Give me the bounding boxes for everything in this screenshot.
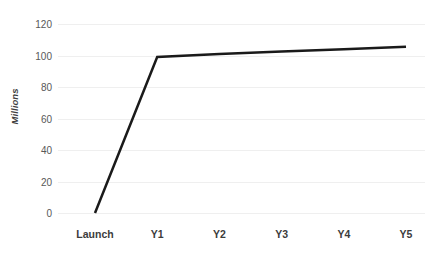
plot-area — [58, 24, 425, 213]
y-tick-label: 80 — [0, 82, 58, 93]
x-tick-label: Y5 — [400, 228, 413, 240]
y-tick-label: 40 — [0, 145, 58, 156]
x-tick-label: Launch — [76, 228, 113, 240]
series-layer — [58, 24, 425, 213]
gridline — [58, 213, 425, 214]
x-tick-label: Y3 — [275, 228, 288, 240]
y-tick-label: 100 — [0, 50, 58, 61]
series-line-users — [95, 47, 406, 213]
x-tick-label: Y2 — [213, 228, 226, 240]
y-axis-tick-labels: 020406080100120 — [0, 0, 58, 256]
y-tick-label: 120 — [0, 19, 58, 30]
y-tick-label: 20 — [0, 176, 58, 187]
y-tick-label: 60 — [0, 113, 58, 124]
x-tick-label: Y4 — [337, 228, 350, 240]
line-chart: Millions 020406080100120 LaunchY1Y2Y3Y4Y… — [0, 0, 443, 256]
x-tick-label: Y1 — [151, 228, 164, 240]
y-tick-label: 0 — [0, 208, 58, 219]
x-axis-tick-labels: LaunchY1Y2Y3Y4Y5 — [0, 228, 443, 248]
